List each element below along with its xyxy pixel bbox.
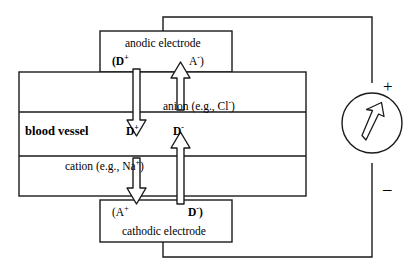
drug-cation-charge: + <box>134 123 138 132</box>
cation-label-text: cation (e.g., Na <box>65 160 136 172</box>
drug-anion-charge: - <box>181 123 184 132</box>
anodic-species-anion-close: ) <box>200 55 204 67</box>
cation-label-close: ) <box>140 160 144 172</box>
drug-anion-label: D- <box>173 126 184 138</box>
cathodic-species-cation-charge: + <box>124 204 128 213</box>
figure-canvas: anodic electrode (D+ A-) (A+ D-) cathodi… <box>0 0 419 274</box>
anion-label: anion (e.g., Cl-) <box>163 101 235 113</box>
source-plus-sign: + <box>383 78 393 95</box>
anodic-species-drug-cation: (D+ <box>112 56 129 68</box>
blood-vessel-label: blood vessel <box>25 125 89 138</box>
cathodic-species-cation: (A+ <box>112 207 129 219</box>
anodic-species-drug-cation-charge: + <box>124 53 128 62</box>
cathodic-electrode-label: cathodic electrode <box>122 226 206 238</box>
current-source-symbol <box>342 93 402 153</box>
anion-label-text: anion (e.g., Cl <box>163 100 228 112</box>
anodic-electrode-label: anodic electrode <box>125 38 201 50</box>
anodic-species-drug-cation-text: (D <box>112 55 124 67</box>
cathodic-species-drug-anion: D-) <box>188 207 203 219</box>
cation-label: cation (e.g., Na+) <box>65 161 144 173</box>
source-minus-sign: – <box>383 180 392 197</box>
cathodic-species-cation-text: (A <box>112 206 124 218</box>
drug-cation-label: D+ <box>126 126 139 138</box>
cathodic-species-drug-anion-close: ) <box>199 206 203 218</box>
anodic-species-anion: A-) <box>189 56 204 68</box>
anion-label-close: ) <box>231 100 235 112</box>
